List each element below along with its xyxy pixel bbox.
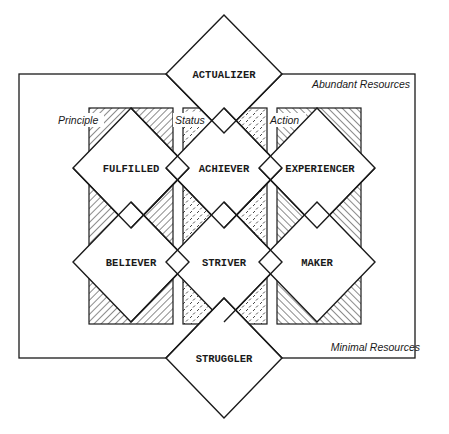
segment-achiever: ACHIEVER [199, 163, 250, 175]
segment-fulfilled: FULFILLED [103, 163, 160, 175]
vals-diagram: Principle Status Action Abundant Resourc… [0, 0, 449, 434]
column-label-status: Status [175, 114, 206, 126]
segment-striver: STRIVER [202, 257, 247, 269]
segment-actualizer: ACTUALIZER [192, 69, 256, 81]
label-minimal-resources: Minimal Resources [331, 341, 421, 353]
segment-maker: MAKER [301, 257, 333, 269]
label-abundant-resources: Abundant Resources [311, 78, 411, 90]
segment-believer: BELIEVER [106, 257, 157, 269]
segment-struggler: STRUGGLER [196, 353, 253, 365]
column-label-principle: Principle [58, 114, 98, 126]
segment-experiencer: EXPERIENCER [285, 163, 355, 175]
column-label-action: Action [269, 114, 299, 126]
